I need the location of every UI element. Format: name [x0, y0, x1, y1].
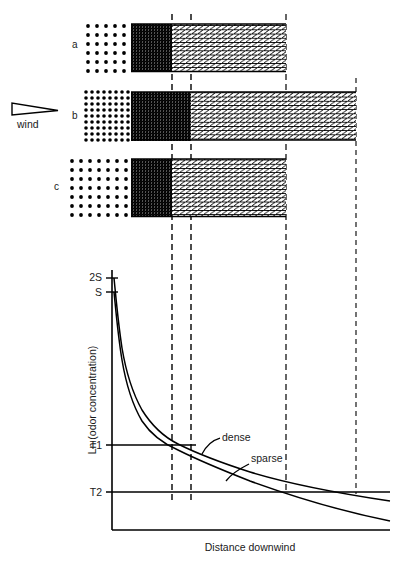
- chart-annotations: dense sparse: [202, 431, 283, 481]
- y-tick-label-S: S: [95, 286, 102, 298]
- panel-a: a: [72, 24, 286, 73]
- wind-label: wind: [16, 118, 39, 130]
- annotation-sparse: sparse: [251, 452, 283, 464]
- curve-sparse: [114, 292, 390, 521]
- panel-c-dense-plume: [131, 159, 172, 217]
- wind-arrow-icon: [12, 103, 58, 115]
- panel-c-label: c: [54, 181, 59, 192]
- panel-c-source-dots: [70, 159, 128, 217]
- chart-curves: [114, 278, 390, 521]
- panel-a-light-plume: [172, 24, 286, 71]
- curve-dense: [114, 278, 390, 501]
- panel-b: b: [72, 90, 356, 142]
- y-tick-label-T2: T2: [90, 486, 102, 498]
- x-axis-title: Distance downwind: [205, 541, 296, 553]
- annotation-dense: dense: [222, 431, 251, 443]
- panel-b-dense-plume: [131, 92, 191, 141]
- dense-leader-line: [202, 438, 220, 454]
- panel-a-source-dots: [86, 24, 126, 73]
- wind-indicator: wind: [12, 103, 58, 130]
- chart-axes: [106, 270, 390, 530]
- panel-a-label: a: [72, 39, 78, 50]
- panel-b-light-plume: [191, 92, 356, 140]
- panel-c: c: [54, 159, 286, 217]
- y-axis-title: Ln (odor concentration): [86, 346, 98, 455]
- guide-dashed-lines: [172, 14, 356, 500]
- panel-b-source-dots: [84, 90, 130, 142]
- y-tick-label-2S: 2S: [89, 271, 102, 283]
- panel-b-label: b: [72, 110, 78, 121]
- panel-c-light-plume: [172, 159, 286, 216]
- threshold-lines: [106, 445, 390, 492]
- odor-plume-figure: a b: [0, 0, 396, 563]
- panel-a-dense-plume: [131, 24, 172, 72]
